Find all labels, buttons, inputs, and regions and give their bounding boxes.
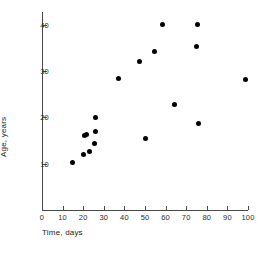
x-tick-label: 100: [241, 213, 254, 222]
data-point: [116, 76, 121, 81]
y-tick-label: 20: [40, 113, 49, 122]
data-point: [160, 22, 165, 27]
data-point: [93, 115, 98, 120]
y-tick-label: 40: [40, 20, 49, 29]
x-tick: [227, 206, 228, 210]
data-point: [93, 129, 98, 134]
x-tick: [42, 206, 43, 210]
x-tick-label: 50: [141, 213, 150, 222]
x-tick-label: 40: [120, 213, 129, 222]
data-point: [172, 102, 177, 107]
x-tick: [63, 206, 64, 210]
data-point: [143, 136, 148, 141]
x-axis-line: [42, 210, 248, 211]
data-point: [87, 149, 92, 154]
x-tick: [207, 206, 208, 210]
data-point: [84, 132, 89, 137]
x-tick: [83, 206, 84, 210]
scatter-chart: Time, days Age, years 010203040506070809…: [0, 0, 262, 256]
plot-area: [42, 12, 248, 210]
data-point: [81, 152, 86, 157]
data-point: [243, 77, 248, 82]
x-tick: [166, 206, 167, 210]
data-point: [194, 44, 199, 49]
x-tick: [248, 206, 249, 210]
data-point: [137, 59, 142, 64]
x-tick-label: 70: [182, 213, 191, 222]
data-point: [196, 121, 201, 126]
x-tick-label: 0: [40, 213, 44, 222]
y-axis-title: Age, years: [0, 117, 8, 157]
x-tick: [124, 206, 125, 210]
x-tick-label: 20: [79, 213, 88, 222]
data-point: [70, 160, 75, 165]
x-axis-title: Time, days: [42, 228, 83, 237]
x-tick-label: 90: [223, 213, 232, 222]
y-tick-label: 30: [40, 67, 49, 76]
x-tick-label: 30: [99, 213, 108, 222]
data-point: [195, 22, 200, 27]
x-tick-label: 10: [58, 213, 67, 222]
x-tick: [145, 206, 146, 210]
y-tick-label: 10: [40, 159, 49, 168]
x-tick: [186, 206, 187, 210]
data-point: [152, 49, 157, 54]
x-tick: [104, 206, 105, 210]
data-point: [92, 141, 97, 146]
x-tick-label: 80: [202, 213, 211, 222]
x-tick-label: 60: [161, 213, 170, 222]
